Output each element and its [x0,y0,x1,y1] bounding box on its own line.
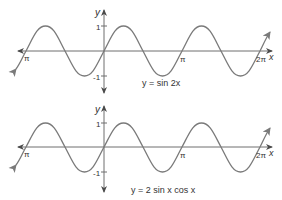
top-tick-neg-one-label: -1 [93,73,101,82]
top-tick-two-pi-label: 2π [256,55,266,64]
top-tick-pi-label: π [180,55,186,64]
bottom-equation-label: y = 2 sin x cos x [131,185,196,195]
top-equation-label: y = sin 2x [142,78,181,88]
top-graph: y 1 -1 π π 2π x y = sin 2x [16,7,274,93]
bottom-tick-two-pi-label: 2π [256,151,266,160]
bottom-tick-neg-one-label: -1 [93,169,101,178]
bottom-tick-one-label: 1 [96,120,101,129]
graphs-canvas: y 1 -1 π π 2π x y = sin 2x y 1 -1 π π 2π… [0,0,282,200]
top-tick-one-label: 1 [96,23,101,32]
bottom-tick-pi-label: π [180,151,186,160]
top-tick-neg-pi-label: π [24,54,30,63]
bottom-tick-neg-pi-label: π [24,150,30,159]
bottom-y-axis-label: y [94,104,101,115]
top-y-axis-label: y [94,7,101,18]
bottom-x-axis-label: x [268,148,274,158]
bottom-graph: y 1 -1 π π 2π x y = 2 sin x cos x [16,104,274,195]
top-x-axis-label: x [268,52,274,62]
